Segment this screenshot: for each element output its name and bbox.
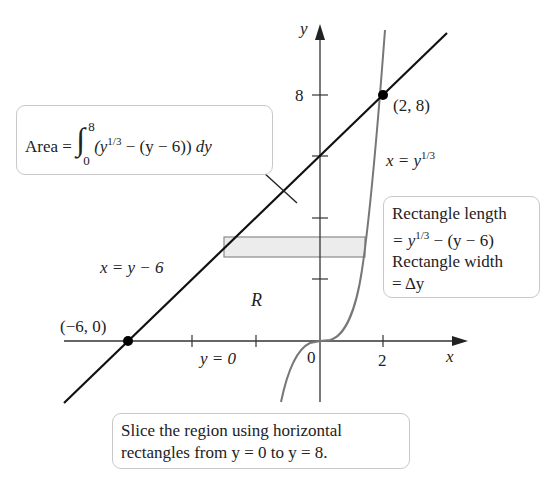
x-axis-arrow-icon xyxy=(452,336,468,346)
integral-sign-icon: ∫80 xyxy=(76,132,94,152)
area-box-leader xyxy=(263,172,297,203)
cubic-curve-label: x = y1/3 xyxy=(386,150,435,169)
slice-line-2: rectangles from y = 0 to y = 8. xyxy=(121,442,409,464)
x-tick-label-0: 0 xyxy=(307,349,316,366)
integral-upper-limit: 8 xyxy=(88,117,95,137)
point-neg6-0 xyxy=(123,336,133,346)
rectangle-width-formula: = Δy xyxy=(392,273,539,295)
rectangle-description-box: Rectangle length = y1/3 − (y − 6) Rectan… xyxy=(383,196,540,298)
point-2-8 xyxy=(378,90,388,100)
integrand-open: (y xyxy=(94,137,107,156)
region-label: R xyxy=(251,291,262,309)
y-axis-arrow-icon xyxy=(315,24,325,40)
y-axis-label: y xyxy=(300,20,308,37)
slice-description-box: Slice the region using horizontal rectan… xyxy=(112,413,410,469)
figure-canvas: y x 8 0 2 (2, 8) (−6, 0) x = y1/3 x = y … xyxy=(0,0,543,481)
integrand-rest: − (y − 6)) xyxy=(121,137,195,156)
integrand-exponent: 1/3 xyxy=(107,135,121,147)
x-tick-label-2: 2 xyxy=(378,352,387,369)
y-equals-zero-label: y = 0 xyxy=(200,350,236,367)
point-label-2-8: (2, 8) xyxy=(393,97,430,114)
line-label: x = y − 6 xyxy=(100,259,164,276)
x-axis-label: x xyxy=(446,348,454,365)
area-prefix: Area = xyxy=(25,137,76,156)
point-label-neg6-0: (−6, 0) xyxy=(60,318,106,335)
rectangle-width-label: Rectangle width xyxy=(392,251,539,273)
area-formula-box: Area = ∫80(y1/3 − (y − 6)) dy xyxy=(16,105,273,175)
y-tick-label-8: 8 xyxy=(295,87,304,104)
rectangle-length-formula: = y1/3 − (y − 6) xyxy=(392,225,539,252)
sample-rectangle-slice xyxy=(224,237,365,257)
differential: dy xyxy=(196,137,212,156)
integral-lower-limit: 0 xyxy=(83,151,90,171)
slice-line-1: Slice the region using horizontal xyxy=(121,420,409,442)
rectangle-length-label: Rectangle length xyxy=(392,203,539,225)
